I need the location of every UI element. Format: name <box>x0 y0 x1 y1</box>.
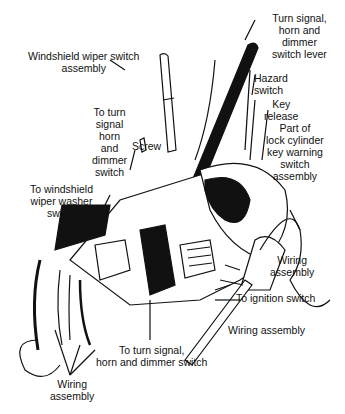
label-line: dimmer <box>272 36 327 48</box>
label-line: lock cylinder <box>266 134 324 146</box>
label-line: To ignition switch <box>236 292 315 304</box>
label-hazard-switch: Hazard switch <box>254 72 288 96</box>
label-line: horn <box>92 130 127 142</box>
label-to-wiper-washer-switch: To windshield wiper washer switch <box>30 183 93 219</box>
label-line: Wiring assembly <box>228 324 305 336</box>
label-line: switch <box>254 84 288 96</box>
label-line: release <box>264 110 298 122</box>
label-line: wiper washer <box>30 195 93 207</box>
label-line: Part of <box>266 122 324 134</box>
label-lock-cylinder-warning: Part of lock cylinder key warning switch… <box>266 122 324 182</box>
label-line: Wiring <box>270 254 314 266</box>
label-wiper-switch-assembly: Windshield wiper switch assembly <box>28 50 139 74</box>
label-line: switch <box>30 207 93 219</box>
label-to-turn-signal-bottom: To turn signal, horn and dimmer switch <box>96 344 207 368</box>
label-line: To windshield <box>30 183 93 195</box>
label-to-ignition-switch: To ignition switch <box>236 292 315 304</box>
label-line: To turn signal, <box>96 344 207 356</box>
label-line: assembly <box>28 62 139 74</box>
label-line: switch <box>92 166 127 178</box>
label-turn-signal-lever: Turn signal, horn and dimmer switch leve… <box>272 12 327 60</box>
label-line: Key <box>264 98 298 110</box>
label-line: To turn <box>92 106 127 118</box>
label-wiring-assembly-right: Wiring assembly <box>270 254 314 278</box>
label-line: horn and <box>272 24 327 36</box>
label-to-turn-signal-horn-dimmer: To turn signal horn and dimmer switch <box>92 106 127 178</box>
label-line: Turn signal, <box>272 12 327 24</box>
label-line: assembly <box>266 170 324 182</box>
label-line: Screw <box>132 140 161 152</box>
label-line: signal <box>92 118 127 130</box>
label-line: dimmer <box>92 154 127 166</box>
label-line: switch lever <box>272 48 327 60</box>
label-line: key warning <box>266 146 324 158</box>
label-key-release: Key release <box>264 98 298 122</box>
label-line: switch <box>266 158 324 170</box>
label-line: Hazard <box>254 72 288 84</box>
label-line: and <box>92 142 127 154</box>
label-line: assembly <box>50 390 94 402</box>
label-line: horn and dimmer switch <box>96 356 207 368</box>
label-wiring-assembly-bottom-left: Wiring assembly <box>50 378 94 402</box>
label-screw: Screw <box>132 140 161 152</box>
label-line: Windshield wiper switch <box>28 50 139 62</box>
label-wiring-assembly-bottom-right: Wiring assembly <box>228 324 305 336</box>
label-line: Wiring <box>50 378 94 390</box>
label-line: assembly <box>270 266 314 278</box>
